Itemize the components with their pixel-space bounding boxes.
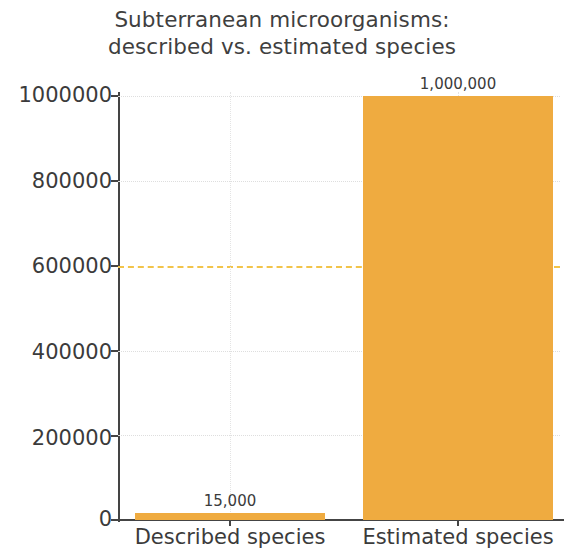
y-tick-mark-1000000	[111, 95, 118, 97]
gridline-vertical-described	[230, 92, 231, 520]
y-tick-label-600000: 600000	[32, 256, 112, 277]
y-tick-mark-0	[111, 519, 118, 521]
chart-title: Subterranean microorganisms: described v…	[0, 6, 564, 60]
y-tick-mark-400000	[111, 350, 118, 352]
y-tick-mark-800000	[111, 180, 118, 182]
y-tick-label-800000: 800000	[32, 171, 112, 192]
y-tick-label-200000: 200000	[32, 428, 112, 449]
plot-area: 15,000 1,000,000	[118, 92, 560, 520]
y-tick-label-400000: 400000	[32, 342, 112, 363]
x-tick-label-estimated-species: Estimated species	[338, 524, 564, 550]
chart-figure: Subterranean microorganisms: described v…	[0, 0, 564, 556]
bar-estimated-species[interactable]	[363, 96, 553, 520]
bar-value-label-estimated: 1,000,000	[408, 76, 508, 93]
bar-value-label-described: 15,000	[180, 493, 280, 510]
y-tick-mark-600000	[111, 265, 118, 267]
y-tick-mark-200000	[111, 435, 118, 437]
bar-described-species[interactable]	[135, 513, 325, 520]
y-tick-label-1000000: 1000000	[18, 85, 112, 106]
x-tick-label-described-species: Described species	[110, 524, 350, 550]
